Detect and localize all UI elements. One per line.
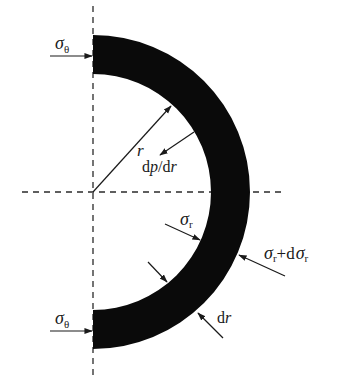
half-ring-wall <box>93 35 250 349</box>
pressure-gradient-arrow <box>160 132 194 155</box>
sigma-r-label: σr <box>180 209 193 230</box>
pressure-gradient-label: dp/dr <box>142 158 177 176</box>
sigma-r-plus-d-sigma-r-label: σr+dσr <box>264 243 309 264</box>
sigma-theta-bottom-label: σθ <box>55 308 69 330</box>
thickness-label: dr <box>217 309 232 326</box>
stress-diagram: σθ σθ r dp/dr σr σr+dσr dr <box>0 0 352 383</box>
thickness-inner-arrow <box>148 262 167 282</box>
radius-arrow <box>93 106 171 192</box>
sigma-theta-top-label: σθ <box>55 33 69 55</box>
diagram-canvas: σθ σθ r dp/dr σr σr+dσr dr <box>0 0 352 383</box>
